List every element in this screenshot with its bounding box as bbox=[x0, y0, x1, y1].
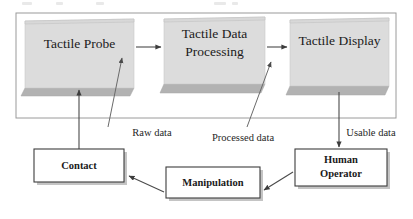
scan-artifact-row bbox=[22, 2, 238, 5]
arrow-manipulation-to-contact bbox=[129, 176, 164, 192]
block-tactile-data-processing[interactable]: Tactile Data Processing bbox=[160, 17, 265, 93]
block-label-line-1: Contact bbox=[61, 160, 97, 171]
block-label-line-1: Human bbox=[324, 154, 358, 165]
block-manipulation[interactable]: Manipulation bbox=[166, 167, 263, 201]
block-label-line-2: Processing bbox=[185, 44, 244, 59]
block-label-line-1: Tactile Data bbox=[182, 26, 247, 41]
block-label-line-1: Manipulation bbox=[182, 177, 243, 188]
block-label-line-1: Tactile Probe bbox=[44, 36, 115, 51]
diagram-canvas: Tactile Probe Tactile Data Processing Ta… bbox=[0, 0, 413, 219]
block-tactile-display[interactable]: Tactile Display bbox=[286, 18, 389, 95]
block-contact[interactable]: Contact bbox=[34, 149, 127, 185]
block-label-line-2: Operator bbox=[320, 168, 362, 179]
flow-label-processed-data: Processed data bbox=[212, 132, 274, 143]
block-human-operator[interactable]: Human Operator bbox=[295, 149, 390, 189]
flow-label-usable-data: Usable data bbox=[346, 127, 396, 138]
tactile-feedback-diagram: Tactile Probe Tactile Data Processing Ta… bbox=[0, 0, 413, 219]
block-label-line-1: Tactile Display bbox=[299, 33, 381, 48]
arrow-operator-to-manipulation bbox=[264, 172, 293, 190]
flow-label-raw-data: Raw data bbox=[132, 127, 172, 138]
